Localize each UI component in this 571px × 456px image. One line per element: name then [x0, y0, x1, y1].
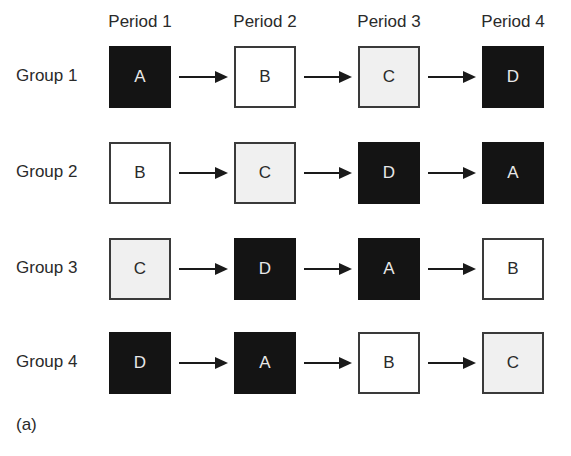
treatment-box-g1-p3: C	[358, 46, 420, 108]
arrow-right-icon	[179, 166, 228, 180]
treatment-box-g4-p2: A	[234, 332, 296, 394]
arrow-right-icon	[428, 356, 476, 370]
arrow-right-icon	[304, 262, 352, 276]
arrow-right-icon	[428, 262, 476, 276]
treatment-box-g2-p1: B	[109, 142, 171, 204]
arrow-right-icon	[428, 70, 476, 84]
treatment-box-g3-p2: D	[234, 238, 296, 300]
group-label-4: Group 4	[16, 352, 77, 372]
treatment-box-g4-p3: B	[358, 332, 420, 394]
arrow-right-icon	[179, 70, 228, 84]
period-header-4: Period 4	[468, 12, 558, 32]
panel-label: (a)	[16, 415, 37, 435]
treatment-box-g2-p3: D	[358, 142, 420, 204]
treatment-box-g4-p4: C	[482, 332, 544, 394]
group-label-3: Group 3	[16, 258, 77, 278]
treatment-box-g3-p4: B	[482, 238, 544, 300]
treatment-box-g3-p1: C	[109, 238, 171, 300]
period-header-3: Period 3	[344, 12, 434, 32]
treatment-box-g4-p1: D	[109, 332, 171, 394]
period-header-2: Period 2	[220, 12, 310, 32]
group-label-1: Group 1	[16, 66, 77, 86]
arrow-right-icon	[304, 70, 352, 84]
arrow-right-icon	[179, 262, 228, 276]
treatment-box-g2-p2: C	[234, 142, 296, 204]
arrow-right-icon	[428, 166, 476, 180]
group-label-2: Group 2	[16, 162, 77, 182]
treatment-box-g3-p3: A	[358, 238, 420, 300]
treatment-box-g1-p2: B	[234, 46, 296, 108]
treatment-box-g2-p4: A	[482, 142, 544, 204]
arrow-right-icon	[304, 356, 352, 370]
treatment-box-g1-p4: D	[482, 46, 544, 108]
arrow-right-icon	[179, 356, 228, 370]
period-header-1: Period 1	[95, 12, 185, 32]
arrow-right-icon	[304, 166, 352, 180]
treatment-box-g1-p1: A	[109, 46, 171, 108]
